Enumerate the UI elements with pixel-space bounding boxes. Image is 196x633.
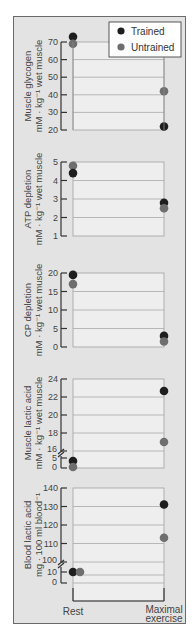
y-axis-label: Blood lactic acid (22, 501, 33, 570)
panel-muscle-lactic-acid: 24 22 20 18 16 5 0 Muscle lactic acid mM… (22, 374, 168, 472)
y-axis-units: mM · kg⁻¹ wet muscle (33, 264, 44, 357)
tick-label: 2 (53, 213, 58, 223)
tick-label: 0 (52, 462, 57, 472)
tick-label: 5 (53, 324, 58, 334)
y-axis-units: mM · kg⁻¹ wet muscle (33, 153, 44, 246)
y-axis-label: CP depletion (22, 283, 33, 337)
chart-svg: 70 60 50 40 30 20 Muscle glycogen mM · k… (0, 0, 196, 633)
point-untrained (69, 280, 78, 289)
tick-label: 20 (48, 125, 58, 135)
tick-label: 4 (53, 176, 58, 186)
tick-label: 20 (48, 410, 58, 420)
panel-blood-lactic-acid: 140 130 120 110 100 10 0 Blood lactic ac… (22, 483, 168, 601)
panel-cp-depletion: 20 15 10 5 0 CP depletion mM · kg⁻¹ wet … (22, 264, 168, 357)
point-untrained (160, 337, 169, 346)
point-untrained (69, 161, 78, 170)
tick-label: 70 (48, 37, 58, 47)
y-axis-label: ATP depletion (22, 170, 33, 229)
point-trained (160, 500, 169, 509)
y-axis-units: mM · kg⁻¹ wet muscle (33, 377, 44, 470)
point-untrained (160, 534, 169, 543)
tick-label: 120 (43, 520, 58, 530)
tick-label: 5 (53, 157, 58, 167)
tick-label: 60 (48, 55, 58, 65)
tick-label: 22 (48, 392, 58, 402)
y-axis-label: Muscle glycogen (22, 51, 33, 122)
legend-untrained-marker (117, 43, 124, 50)
tick-label: 110 (44, 539, 58, 549)
tick-label: 1 (53, 231, 58, 241)
point-untrained (160, 438, 169, 447)
y-axis-units: mM · kg⁻¹ wet muscle (33, 40, 44, 133)
tick-label: 140 (43, 483, 58, 493)
tick-label: 0 (52, 577, 57, 587)
tick-label: 0 (53, 342, 58, 352)
tick-label: 15 (48, 287, 58, 297)
x-label-exercise: exercise (145, 613, 183, 624)
point-trained (160, 387, 169, 396)
point-untrained (76, 568, 85, 577)
y-axis-label: Muscle lactic acid (22, 386, 33, 460)
point-untrained (69, 463, 78, 472)
legend-label-untrained: Untrained (131, 42, 174, 53)
tick-label: 10 (48, 305, 58, 315)
point-trained (69, 271, 78, 280)
x-label-rest: Rest (63, 606, 84, 617)
tick-label: 24 (48, 374, 58, 384)
tick-label: 10 (47, 567, 57, 577)
legend-trained-marker (117, 27, 124, 34)
point-untrained (160, 204, 169, 213)
tick-label: 3 (53, 194, 58, 204)
legend-label-trained: Trained (131, 26, 165, 37)
point-trained (69, 169, 78, 178)
tick-label: 20 (48, 268, 58, 278)
tick-label: 30 (48, 107, 58, 117)
y-axis-units: mg · 100 ml blood⁻¹ (33, 493, 44, 577)
tick-label: 100 (42, 555, 57, 565)
panel-atp-depletion: 5 4 3 2 1 ATP depletion mM · kg⁻¹ wet mu… (22, 153, 168, 246)
tick-label: 18 (48, 428, 58, 438)
tick-label: 130 (43, 502, 58, 512)
tick-label: 40 (48, 90, 58, 100)
legend: Trained Untrained (109, 22, 181, 57)
tick-label: 50 (48, 72, 58, 82)
